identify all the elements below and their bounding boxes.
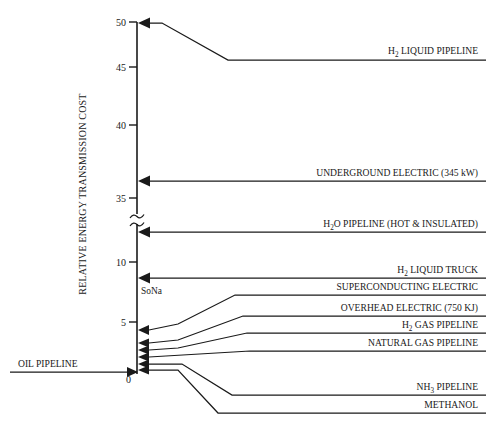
- label-natural-gas-pipeline: NATURAL GAS PIPELINE: [368, 337, 478, 348]
- label-h2-liquid-truck-prefix: H: [397, 264, 404, 275]
- label-oil-pipeline: OIL PIPELINE: [18, 358, 78, 369]
- arrowhead-natural-gas-pipeline: [138, 353, 149, 362]
- label-nh3-pipeline-prefix: NH: [417, 381, 431, 392]
- label-nh3-pipeline-suffix: PIPELINE: [434, 381, 478, 392]
- label-h2o-pipeline: H2O PIPELINE (HOT & INSULATED): [323, 218, 478, 232]
- label-nh3-pipeline: NH3 PIPELINE: [417, 381, 479, 395]
- y-axis-title: RELATIVE ENERGY TRANSMISSION COST: [77, 93, 88, 294]
- y-axis-ticks: [129, 22, 137, 372]
- label-h2o-pipeline-prefix: H: [323, 218, 330, 229]
- label-h2-liquid-pipeline-prefix: H: [388, 45, 395, 56]
- chart-container: RELATIVE ENERGY TRANSMISSION COST 50 45 …: [0, 0, 488, 435]
- tick-label-35: 35: [116, 193, 126, 204]
- tick-label-50: 50: [116, 17, 126, 28]
- arrowhead-h2o-pipeline: [138, 227, 150, 238]
- label-h2-liquid-pipeline: H2 LIQUID PIPELINE: [388, 45, 478, 59]
- arrowhead-h2-gas-pipeline: [138, 346, 149, 355]
- arrowhead-overhead-electric: [138, 339, 149, 348]
- arrowhead-underground-electric: [138, 176, 150, 187]
- sona-annotation: SoNa: [141, 286, 163, 296]
- series-arrowheads: [127, 18, 150, 378]
- label-h2-liquid-truck-suffix: LIQUID TRUCK: [408, 264, 478, 275]
- label-methanol: METHANOL: [424, 399, 478, 410]
- label-underground-electric: UNDERGROUND ELECTRIC (345 kW): [316, 167, 478, 179]
- energy-transmission-cost-chart: RELATIVE ENERGY TRANSMISSION COST 50 45 …: [0, 0, 488, 435]
- y-axis-tick-labels: 50 45 40 35 10 5 0: [116, 17, 131, 386]
- axis-break-upper-squiggle: [130, 215, 144, 219]
- label-superconducting-electric: SUPERCONDUCTING ELECTRIC: [336, 281, 478, 292]
- label-overhead-electric: OVERHEAD ELECTRIC (750 KJ): [341, 302, 478, 314]
- arrowhead-h2-liquid-pipeline: [138, 18, 150, 29]
- tick-label-40: 40: [116, 120, 126, 131]
- arrowhead-methanol: [138, 366, 149, 375]
- label-h2-gas-pipeline-prefix: H: [402, 319, 409, 330]
- label-h2-liquid-pipeline-suffix: LIQUID PIPELINE: [399, 45, 479, 56]
- line-natural-gas-pipeline: [149, 351, 486, 357]
- arrowhead-h2-liquid-truck: [138, 273, 150, 284]
- tick-label-45: 45: [116, 62, 126, 73]
- label-h2-gas-pipeline-suffix: GAS PIPELINE: [412, 319, 478, 330]
- label-h2-gas-pipeline: H2 GAS PIPELINE: [402, 319, 478, 333]
- arrowhead-superconducting-electric: [138, 325, 149, 335]
- label-h2-liquid-truck: H2 LIQUID TRUCK: [397, 264, 478, 278]
- label-h2o-pipeline-suffix: O PIPELINE (HOT & INSULATED): [334, 218, 478, 230]
- tick-label-10: 10: [116, 257, 126, 268]
- tick-label-5: 5: [121, 317, 126, 328]
